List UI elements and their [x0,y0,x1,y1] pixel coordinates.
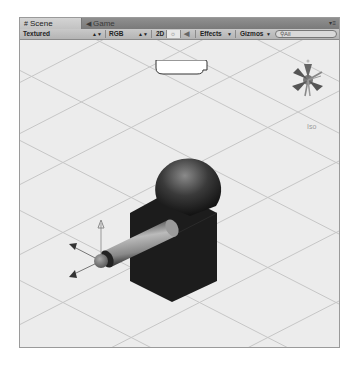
dropdown-arrow-icon: ▼ [266,30,271,38]
scene-toolbar: Textured▲▼ RGB▲▼ 2D ☼ ◀ Effects▼ Gizmos▼… [20,29,339,40]
effects-label: Effects [200,30,222,37]
mode-2d-label: 2D [156,30,164,37]
lighting-toggle[interactable]: ☼ [167,30,181,38]
grid-icon: # [24,20,28,27]
panel-menu-icon[interactable]: ▾≡ [329,19,336,26]
dropdown-arrow-icon: ▲▼ [92,30,102,38]
scene-objects [20,40,340,347]
dropdown-arrow-icon: ▲▼ [138,30,148,38]
color-mode-dropdown[interactable]: RGB▲▼ [106,30,152,38]
gizmos-dropdown[interactable]: Gizmos▼ [237,30,274,38]
scene-viewport[interactable]: Iso [20,40,339,347]
tab-game[interactable]: ◀Game [82,18,140,29]
tab-scene[interactable]: #Scene [20,18,82,29]
speaker-icon: ◀ [184,30,189,37]
audio-toggle[interactable]: ◀ [181,30,196,38]
search-input[interactable]: ⚲All [275,30,337,38]
tab-bar: #Scene ◀Game ▾≡ [20,18,339,29]
effects-dropdown[interactable]: Effects▼ [197,30,236,38]
gizmos-label: Gizmos [240,30,263,37]
search-placeholder: All [284,31,291,37]
scene-view-panel: #Scene ◀Game ▾≡ Textured▲▼ RGB▲▼ 2D ☼ ◀ … [19,17,340,348]
pacman-icon: ◀ [86,20,91,27]
selected-object-pivot [94,254,108,268]
render-mode-dropdown[interactable]: Textured▲▼ [20,30,106,38]
dropdown-arrow-icon: ▼ [227,30,232,38]
color-mode-label: RGB [109,30,123,37]
render-mode-label: Textured [23,30,50,37]
tab-game-label: Game [93,19,115,28]
tab-scene-label: Scene [30,19,53,28]
mode-2d-toggle[interactable]: 2D [153,30,167,38]
move-gizmo[interactable] [69,220,108,278]
sun-icon: ☼ [170,30,176,37]
